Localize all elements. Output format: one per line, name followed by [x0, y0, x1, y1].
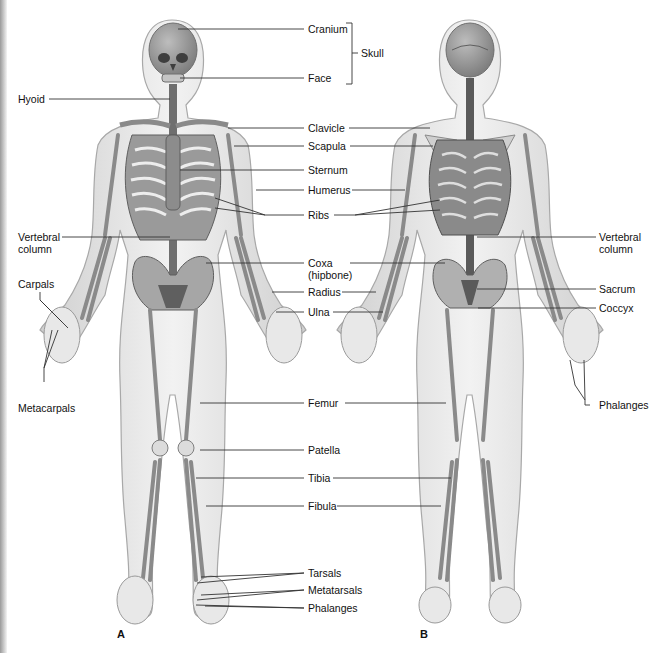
label-ulna: Ulna [308, 306, 330, 318]
label-scapula: Scapula [308, 140, 346, 152]
panel-label-b: B [420, 628, 428, 640]
label-ribs: Ribs [308, 209, 329, 221]
label-clavicle: Clavicle [308, 122, 345, 134]
label-tarsals: Tarsals [308, 567, 341, 579]
figure-a-anterior [40, 20, 306, 624]
label-hyoid: Hyoid [18, 93, 45, 105]
figure-b-posterior [337, 20, 603, 623]
label-vertebral-column-left-1: Vertebral [18, 231, 60, 243]
panel-label-a: A [117, 628, 125, 640]
label-carpals: Carpals [18, 278, 54, 290]
label-skull: Skull [361, 47, 384, 59]
label-vertebral-column-right-2: column [599, 243, 633, 255]
label-coxa: Coxa [308, 257, 333, 269]
label-metacarpals: Metacarpals [18, 402, 75, 414]
label-cranium: Cranium [308, 23, 348, 35]
label-phalanges-hand: Phalanges [599, 399, 649, 411]
label-coccyx: Coccyx [599, 302, 633, 314]
label-metatarsals: Metatarsals [308, 584, 362, 596]
label-fibula: Fibula [308, 500, 337, 512]
label-sternum: Sternum [308, 164, 348, 176]
label-humerus: Humerus [308, 184, 351, 196]
label-radius: Radius [308, 286, 341, 298]
label-femur: Femur [308, 397, 338, 409]
label-vertebral-column-left-2: column [18, 243, 52, 255]
label-phalanges-foot: Phalanges [308, 602, 358, 614]
label-face: Face [308, 72, 331, 84]
label-patella: Patella [308, 444, 340, 456]
label-coxa-hipbone: (hipbone) [308, 269, 352, 281]
label-tibia: Tibia [308, 472, 330, 484]
label-sacrum: Sacrum [599, 283, 635, 295]
label-vertebral-column-right-1: Vertebral [599, 231, 641, 243]
